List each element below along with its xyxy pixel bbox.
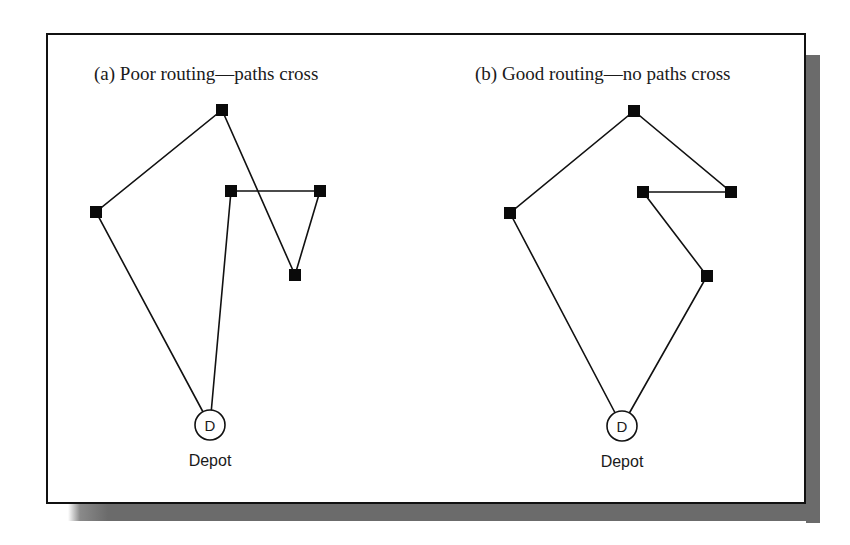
routing-diagram: (a) Poor routing—paths cross D Depot (b)… (0, 0, 850, 545)
panel-title: (a) Poor routing—paths cross (94, 63, 318, 85)
route-path (96, 110, 320, 425)
stop-node-low (701, 270, 713, 282)
stop-node-right (725, 186, 737, 198)
panel-title: (b) Good routing—no paths cross (475, 63, 730, 85)
stop-node-top (216, 104, 228, 116)
route-path (510, 111, 731, 426)
stop-node-left (90, 206, 102, 218)
depot-node: D (607, 411, 637, 441)
depot-letter: D (617, 418, 628, 435)
depot-node: D (195, 410, 225, 440)
depot-letter: D (205, 417, 216, 434)
stop-node-mid (637, 186, 649, 198)
depot-label: Depot (601, 453, 644, 470)
panel-good-routing: (b) Good routing—no paths cross D Depot (475, 63, 737, 470)
stop-node-low (289, 269, 301, 281)
stop-node-right (314, 185, 326, 197)
stop-node-mid (225, 185, 237, 197)
stop-node-top (628, 105, 640, 117)
stop-node-left (504, 207, 516, 219)
panel-poor-routing: (a) Poor routing—paths cross D Depot (90, 63, 326, 469)
depot-label: Depot (189, 452, 232, 469)
